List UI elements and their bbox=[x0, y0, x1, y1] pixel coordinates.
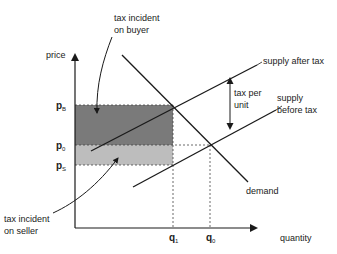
tax-per-unit-label-line1: tax per bbox=[234, 88, 262, 98]
supply-before-tax-label-line1: supply bbox=[277, 93, 304, 103]
seller-tax-area bbox=[75, 145, 173, 165]
price-label-pB: pB bbox=[56, 100, 66, 112]
price-axis-label: price bbox=[46, 50, 66, 60]
buyer-tax-area bbox=[75, 105, 173, 145]
supply-before-tax-label-line2: before tax bbox=[277, 105, 318, 115]
supply-after-tax-label: supply after tax bbox=[263, 56, 325, 66]
quantity-label-q1: q1 bbox=[169, 232, 179, 244]
buyer-annotation-arrow bbox=[97, 37, 112, 113]
price-label-p0: p0 bbox=[56, 140, 66, 152]
quantity-label-q0: q0 bbox=[206, 232, 216, 244]
price-label-pS: pS bbox=[56, 160, 66, 172]
tax-incidence-diagram: price quantity tax incident on buyer tax… bbox=[0, 0, 337, 254]
demand-label: demand bbox=[246, 186, 279, 196]
seller-annotation-line1: tax incident bbox=[4, 214, 50, 224]
tax-arrow-down-icon bbox=[227, 123, 234, 130]
quantity-axis-label: quantity bbox=[280, 233, 312, 243]
tax-per-unit-label-line2: unit bbox=[234, 100, 249, 110]
buyer-annotation-line2: on buyer bbox=[114, 25, 149, 35]
buyer-annotation-line1: tax incident bbox=[114, 13, 160, 23]
seller-annotation-line2: on seller bbox=[4, 226, 38, 236]
supply-after-tax-leader bbox=[257, 62, 262, 65]
